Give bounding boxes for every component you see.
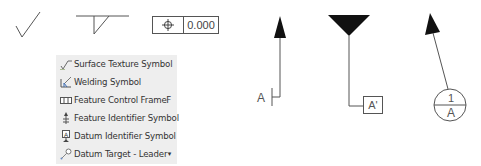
position-tolerance-icon [162, 19, 174, 31]
datum-target-leader-icon [60, 148, 72, 160]
datum-identifier-label: A' [368, 99, 377, 111]
feature-control-frame: 0.000 [152, 16, 219, 34]
menu-item-feature-identifier[interactable]: Feature Identifier Symbol [56, 109, 177, 126]
datum-identifier-icon: A [60, 130, 72, 142]
tolerance-value: 0.000 [184, 17, 218, 33]
datum-target-top-label: 1 [447, 92, 455, 104]
datum-target-bottom-label: A [446, 106, 456, 120]
feature-identifier-icon [60, 112, 72, 124]
menu-item-surface-texture[interactable]: Surface Texture Symbol [56, 55, 177, 72]
leader-arrow-icon [266, 14, 286, 108]
menu-item-feature-control-frame[interactable]: Feature Control Frame F [56, 91, 177, 108]
welding-icon [60, 76, 72, 88]
weld-symbol-icon [76, 14, 130, 36]
menu-item-datum-target-leader[interactable]: Datum Target - Leader ▾ [56, 145, 177, 162]
menu-item-welding[interactable]: Welding Symbol [56, 73, 177, 90]
menu-item-datum-identifier[interactable]: A Datum Identifier Symbol [56, 127, 177, 144]
feature-control-frame-icon [60, 94, 72, 106]
surface-texture-icon [60, 58, 72, 70]
dropdown-arrow-icon[interactable]: ▾ [168, 150, 171, 158]
surface-texture-check-icon [14, 10, 42, 40]
annotation-symbol-menu: Surface Texture Symbol Welding Symbol Fe… [56, 55, 177, 164]
feature-identifier-label: A [257, 91, 265, 105]
datum-identifier-box: A' [363, 96, 383, 114]
shortcut-key: F [166, 95, 171, 105]
